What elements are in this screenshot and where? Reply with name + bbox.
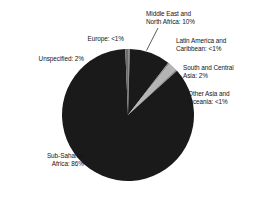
- pie-label-europe: Europe: <1%: [52, 35, 124, 43]
- pie-label-unspecified: Unspecified: 2%: [6, 55, 84, 63]
- pie-label-south-central-asia: South and Central Asia: 2%: [183, 64, 261, 80]
- pie-label-latin-america-caribbean: Latin America and Caribbean: <1%: [176, 37, 256, 53]
- pie-chart-figure: Europe: <1%Middle East and North Africa:…: [0, 0, 266, 203]
- leader-line-middle-east-north-africa: [147, 28, 159, 51]
- pie-label-other-asia-oceania: Other Asia and Oceania: <1%: [188, 90, 262, 106]
- pie-label-sub-saharan-africa: Sub-Saharan Africa: 86%: [6, 152, 84, 168]
- pie-label-middle-east-north-africa: Middle East and North Africa: 10%: [146, 10, 218, 26]
